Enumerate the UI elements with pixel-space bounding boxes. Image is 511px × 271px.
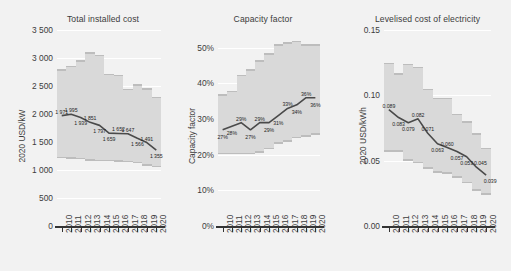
- x-axis-tick-label: 2019: [150, 215, 159, 233]
- data-point-label: 1 355: [150, 153, 163, 159]
- data-point-label: 1 566: [131, 141, 144, 147]
- data-point-label: 0.045: [474, 160, 487, 166]
- y-axis-tick-label: 1 500: [32, 137, 53, 147]
- panel-title: Capacity factor: [170, 14, 346, 24]
- x-axis-tick: [71, 228, 72, 232]
- x-axis-tick: [109, 228, 110, 232]
- x-axis-tick: [62, 228, 63, 232]
- x-axis-tick-label: 2013: [93, 215, 102, 233]
- y-axis-tick-label: 3 000: [32, 53, 53, 63]
- x-axis-tick: [447, 228, 448, 232]
- x-axis-tick-label: 2017: [131, 215, 140, 233]
- x-axis-tick-label: 2014: [103, 215, 112, 233]
- x-axis-tick: [100, 228, 101, 232]
- x-axis-tick: [399, 228, 400, 232]
- x-axis-tick: [306, 228, 307, 232]
- x-axis-tick: [128, 228, 129, 232]
- weighted-average-line: [57, 30, 161, 226]
- data-point-label: 28%: [227, 130, 237, 136]
- x-axis-tick: [278, 228, 279, 232]
- x-axis-tick-label: 2011: [235, 215, 244, 233]
- data-point-label: 0.060: [441, 141, 454, 147]
- x-axis-tick: [156, 228, 157, 232]
- data-point-label: 34%: [292, 109, 302, 115]
- data-point-label: 36%: [310, 102, 320, 108]
- data-point-label: 1 995: [65, 107, 78, 113]
- y-axis-tick-label: 0.05: [364, 156, 380, 166]
- y-axis-tick-label: 10%: [197, 185, 214, 195]
- y-axis-label: 2020 USD/kW: [17, 109, 27, 162]
- y-axis-tick-label: 0.10: [364, 90, 380, 100]
- x-axis-tick-label: 2012: [84, 215, 93, 233]
- data-point-label: 1 797: [93, 128, 106, 134]
- x-axis-tick-label: 2015: [112, 215, 121, 233]
- x-axis-tick-label: 2020: [489, 215, 498, 233]
- x-axis-tick: [389, 228, 390, 232]
- x-axis-tick-label: 2015: [272, 215, 281, 233]
- x-axis-tick: [223, 228, 224, 232]
- y-axis-tick-label: 500: [39, 193, 53, 203]
- x-axis-tick: [250, 228, 251, 232]
- y-axis-tick-label: 0: [48, 221, 53, 231]
- data-point-label: 1 647: [122, 127, 135, 133]
- y-axis-tick-label: 0.00: [364, 221, 380, 231]
- x-axis-tick-label: 2019: [309, 215, 318, 233]
- data-point-label: 31%: [273, 120, 283, 126]
- x-axis-tick-label: 2010: [226, 215, 235, 233]
- x-axis-tick-label: 2020: [318, 215, 327, 233]
- x-axis-tick: [467, 228, 468, 232]
- panel-title: Total installed cost: [0, 14, 188, 24]
- x-axis-tick: [232, 228, 233, 232]
- y-axis-tick-label: 40%: [197, 78, 214, 88]
- x-axis-tick-label: 2016: [281, 215, 290, 233]
- data-point-label: 0.039: [484, 178, 497, 184]
- data-point-label: 0.071: [421, 126, 434, 132]
- x-axis-tick: [438, 228, 439, 232]
- x-axis-tick: [297, 228, 298, 232]
- y-axis-tick-label: 30%: [197, 114, 214, 124]
- data-point-label: 1 659: [103, 136, 116, 142]
- x-axis-tick-label: 2017: [291, 215, 300, 233]
- plot-area: 0.000.050.100.150.0890.0830.0790.0820.07…: [384, 30, 491, 226]
- y-axis-tick-label: 0%: [202, 221, 214, 231]
- y-axis-tick-label: 50%: [197, 43, 214, 53]
- x-axis-tick-label: 2011: [74, 215, 83, 233]
- x-axis-tick-label: 2018: [300, 215, 309, 233]
- x-axis-tick: [118, 228, 119, 232]
- x-axis-tick: [408, 228, 409, 232]
- x-axis-tick-label: 2010: [65, 215, 74, 233]
- x-axis-tick: [147, 228, 148, 232]
- x-axis-tick: [457, 228, 458, 232]
- x-axis-tick: [81, 228, 82, 232]
- x-axis-tick: [315, 228, 316, 232]
- panel-levelised-cost-of-electricity: Levelised cost of electricity 2020 USD/k…: [336, 0, 511, 271]
- x-axis-tick: [269, 228, 270, 232]
- y-axis-tick-label: 0.15: [364, 25, 380, 35]
- y-axis-tick-label: 2 500: [32, 81, 53, 91]
- data-point-label: 29%: [236, 116, 246, 122]
- data-point-label: 29%: [255, 116, 265, 122]
- y-axis-tick-label: 2 000: [32, 109, 53, 119]
- x-axis-tick: [288, 228, 289, 232]
- x-axis-tick-label: 2020: [159, 215, 168, 233]
- plot-area: 0%10%20%30%40%50%27%28%29%27%29%29%31%33…: [218, 30, 320, 226]
- x-axis-tick-label: 2016: [121, 215, 130, 233]
- data-point-label: 1 851: [84, 115, 97, 121]
- data-point-label: 29%: [264, 127, 274, 133]
- x-axis-tick-label: 2018: [140, 215, 149, 233]
- plot-area: 05001 0001 5002 0002 5003 0003 5001 9711…: [57, 30, 161, 226]
- weighted-average-line: [384, 30, 491, 226]
- x-axis-tick-label: 2012: [244, 215, 253, 233]
- x-axis-tick: [241, 228, 242, 232]
- panel-total-installed-cost: Total installed cost 2020 USD/kW 05001 0…: [0, 0, 170, 271]
- x-axis-tick: [260, 228, 261, 232]
- x-axis-tick: [137, 228, 138, 232]
- data-point-label: 0.063: [431, 147, 444, 153]
- panel-title: Levelised cost of electricity: [336, 14, 511, 24]
- x-axis-tick: [476, 228, 477, 232]
- figure-canvas: Total installed cost 2020 USD/kW 05001 0…: [0, 0, 511, 271]
- x-axis-tick-label: 2014: [263, 215, 272, 233]
- y-axis-tick-label: 3 500: [32, 25, 53, 35]
- data-point-label: 33%: [282, 101, 292, 107]
- panel-capacity-factor: Capacity factor Capacity factor 0%10%20%…: [170, 0, 336, 271]
